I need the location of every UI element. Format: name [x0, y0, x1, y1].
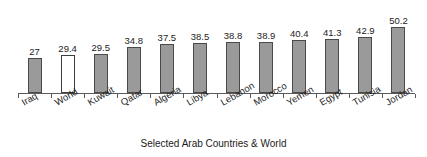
bar-value-label: 38.5: [191, 32, 210, 42]
bar-slot: 27: [18, 8, 51, 93]
bar-slot: 41.3: [316, 8, 349, 93]
bar-value-label: 42.9: [356, 26, 375, 36]
bar-jordan[interactable]: 50.2: [391, 27, 405, 93]
bar-chart: 2729.429.534.837.538.538.838.940.441.342…: [0, 0, 427, 157]
bar-yemen[interactable]: 40.4: [292, 40, 306, 93]
bar-value-label: 29.5: [91, 43, 110, 53]
bar-slot: 42.9: [349, 8, 382, 93]
bar-series: 2729.429.534.837.538.538.838.940.441.342…: [18, 8, 415, 93]
x-axis-title: Selected Arab Countries & World: [0, 138, 427, 150]
bar-slot: 40.4: [283, 8, 316, 93]
bar-value-label: 34.8: [125, 36, 144, 46]
bar-libya[interactable]: 38.5: [193, 43, 207, 93]
bar-value-label: 27: [29, 47, 40, 57]
bar-value-label: 29.4: [58, 44, 77, 54]
bar-iraq[interactable]: 27: [28, 58, 42, 93]
bar-slot: 38.5: [183, 8, 216, 93]
bar-slot: 34.8: [117, 8, 150, 93]
bar-slot: 37.5: [150, 8, 183, 93]
bar-value-label: 37.5: [158, 33, 177, 43]
plot-area: 2729.429.534.837.538.538.838.940.441.342…: [18, 8, 415, 93]
bar-slot: 50.2: [382, 8, 415, 93]
bar-tunisia[interactable]: 42.9: [358, 37, 372, 93]
bar-value-label: 41.3: [323, 28, 342, 38]
bar-slot: 38.9: [250, 8, 283, 93]
bar-slot: 29.4: [51, 8, 84, 93]
bar-value-label: 40.4: [290, 29, 309, 39]
bar-slot: 29.5: [84, 8, 117, 93]
bar-egypt[interactable]: 41.3: [325, 39, 339, 93]
bar-slot: 38.8: [217, 8, 250, 93]
x-axis-tick: [415, 94, 416, 98]
bar-value-label: 38.9: [257, 31, 276, 41]
bar-value-label: 38.8: [224, 31, 243, 41]
bar-value-label: 50.2: [389, 16, 408, 26]
